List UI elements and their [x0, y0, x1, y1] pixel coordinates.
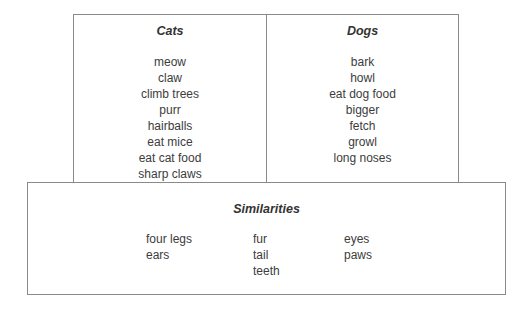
similarity-item: ears [146, 247, 192, 263]
similarity-item: teeth [253, 263, 280, 279]
similarities-box: Similarities four legs ears fur tail tee… [27, 182, 506, 295]
cats-item: sharp claws [74, 166, 266, 182]
similarity-item: fur [253, 231, 280, 247]
similarity-item: paws [344, 247, 372, 263]
cats-list: meow claw climb trees purr hairballs eat… [74, 54, 266, 182]
similarity-item: four legs [146, 231, 192, 247]
dogs-item: bigger [267, 102, 458, 118]
cats-item: climb trees [74, 86, 266, 102]
cats-item: eat mice [74, 134, 266, 150]
dogs-item: fetch [267, 118, 458, 134]
dogs-title: Dogs [267, 24, 458, 38]
dogs-box: Dogs bark howl eat dog food bigger fetch… [266, 14, 459, 184]
similarities-column-3: eyes paws [344, 231, 372, 263]
cats-item: meow [74, 54, 266, 70]
similarity-item: eyes [344, 231, 372, 247]
dogs-item: growl [267, 134, 458, 150]
dogs-item: eat dog food [267, 86, 458, 102]
similarities-title: Similarities [28, 202, 505, 216]
dogs-item: bark [267, 54, 458, 70]
dogs-item: howl [267, 70, 458, 86]
cats-item: claw [74, 70, 266, 86]
dogs-item: long noses [267, 150, 458, 166]
similarities-column-2: fur tail teeth [253, 231, 280, 279]
cats-box: Cats meow claw climb trees purr hairball… [73, 14, 267, 184]
similarities-column-1: four legs ears [146, 231, 192, 263]
cats-item: eat cat food [74, 150, 266, 166]
similarity-item: tail [253, 247, 280, 263]
dogs-list: bark howl eat dog food bigger fetch grow… [267, 54, 458, 166]
cats-title: Cats [74, 24, 266, 38]
cats-item: hairballs [74, 118, 266, 134]
cats-item: purr [74, 102, 266, 118]
